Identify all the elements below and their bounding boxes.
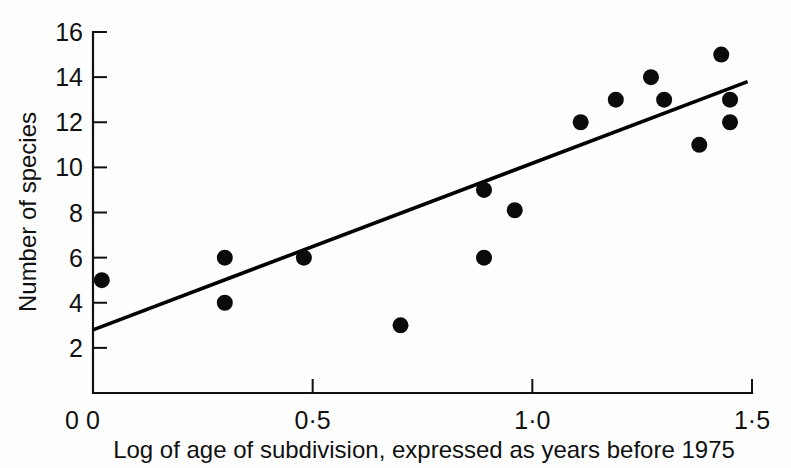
y-tick-label: 16 <box>55 18 83 46</box>
data-points <box>94 47 738 334</box>
x-tick-label: 0 <box>86 406 100 434</box>
regression-line <box>93 82 748 330</box>
data-point <box>476 250 492 266</box>
x-tick-label: 0·5 <box>295 406 331 434</box>
y-tick-label: 4 <box>69 289 83 317</box>
y-tick-label: 0 <box>65 406 79 434</box>
y-tick-label: 2 <box>69 334 83 362</box>
scatter-plot: 0246810121416 00·51·01·5 Number of speci… <box>0 0 791 468</box>
x-tick-label: 1·0 <box>514 406 550 434</box>
trend-line <box>93 82 748 330</box>
axis-lines <box>93 32 752 393</box>
data-point <box>713 47 729 63</box>
y-tick-label: 10 <box>55 153 83 181</box>
y-axis-tick-labels: 0246810121416 <box>55 18 83 434</box>
x-tick-label: 1·5 <box>734 406 770 434</box>
data-point <box>393 317 409 333</box>
x-axis-label: Log of age of subdivision, expressed as … <box>113 436 735 463</box>
data-point <box>691 137 707 153</box>
data-point <box>573 114 589 130</box>
data-point <box>94 272 110 288</box>
data-point <box>507 202 523 218</box>
data-point <box>217 250 233 266</box>
data-point <box>217 295 233 311</box>
x-axis-ticks <box>313 379 752 393</box>
y-tick-label: 12 <box>55 108 83 136</box>
y-axis-ticks <box>93 32 107 348</box>
x-axis-tick-labels: 00·51·01·5 <box>86 406 770 434</box>
y-tick-label: 14 <box>55 63 83 91</box>
data-point <box>476 182 492 198</box>
data-point <box>643 69 659 85</box>
data-point <box>656 92 672 108</box>
y-tick-label: 8 <box>69 199 83 227</box>
data-point <box>296 250 312 266</box>
chart-canvas: 0246810121416 00·51·01·5 Number of speci… <box>0 0 791 468</box>
data-point <box>722 114 738 130</box>
data-point <box>722 92 738 108</box>
axes <box>93 32 752 393</box>
figure-container: 0246810121416 00·51·01·5 Number of speci… <box>0 0 791 468</box>
data-point <box>608 92 624 108</box>
y-tick-label: 6 <box>69 244 83 272</box>
y-axis-label: Number of species <box>14 112 41 312</box>
